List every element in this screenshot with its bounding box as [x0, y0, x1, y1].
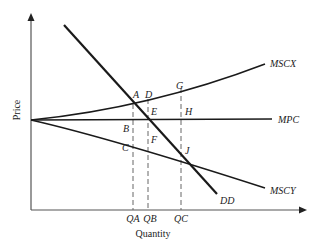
point-g-label: G: [176, 80, 183, 91]
point-c-label: C: [122, 142, 129, 153]
qc-label: QC: [174, 213, 188, 224]
point-h-label: H: [184, 106, 193, 117]
point-f-label: F: [150, 134, 158, 145]
y-axis-title: Price: [11, 99, 22, 120]
dd-label: DD: [219, 195, 235, 206]
mpc-label: MPC: [277, 114, 299, 125]
point-j-label: J: [185, 145, 190, 156]
dd-line: [64, 25, 217, 194]
qb-label: QB: [143, 213, 156, 224]
point-b-label: B: [123, 123, 129, 134]
point-d-label: D: [144, 89, 153, 100]
x-axis-arrow-icon: [299, 207, 307, 214]
x-axis-title: Quantity: [136, 228, 171, 239]
point-a-label: A: [132, 89, 140, 100]
externality-diagram: MSCX MPC MSCY DD A D E B F C G H J QA QB…: [0, 0, 321, 250]
y-axis-arrow-icon: [28, 13, 35, 21]
axes: [28, 13, 308, 214]
mscy-curve: [31, 120, 265, 188]
qa-label: QA: [126, 213, 140, 224]
mpc-line: [31, 119, 272, 120]
mscy-label: MSCY: [269, 185, 297, 196]
point-e-label: E: [150, 106, 157, 117]
mscx-label: MSCX: [269, 58, 297, 69]
